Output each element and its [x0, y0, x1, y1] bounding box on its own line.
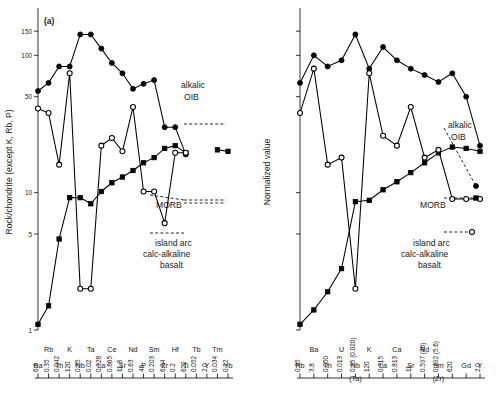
element-label-upper: Ba	[309, 345, 318, 354]
marker-filled-square	[409, 170, 413, 174]
marker-filled-square	[474, 196, 478, 200]
marker-open-circle	[408, 105, 413, 110]
marker-filled-circle	[99, 46, 104, 51]
panel-b-chart: Normalized value0.353.80.0500.0130.35 (0…	[248, 0, 496, 405]
marker-filled-square	[46, 304, 50, 308]
element-label-lower: Sm	[433, 361, 444, 370]
element-label-upper: Tb	[192, 345, 200, 354]
normalizing-value: 620	[446, 361, 453, 372]
marker-filled-square	[464, 146, 468, 150]
normalizing-value: 0.2	[169, 363, 176, 372]
element-label-lower: Sr	[119, 361, 127, 370]
element-label-lower: Ti	[183, 361, 189, 370]
normalizing-value: 0.052	[190, 356, 197, 372]
element-label-lower: Y	[478, 361, 483, 370]
legend-label: OIB	[451, 132, 466, 142]
element-label-lower: Zr	[161, 361, 168, 370]
element-label-lower: Nb	[76, 361, 85, 370]
y-tick-label: 5	[28, 231, 32, 238]
marker-open-circle	[36, 106, 41, 111]
marker-filled-circle	[67, 64, 72, 69]
marker-open-circle	[450, 196, 455, 201]
marker-filled-square	[57, 237, 61, 241]
marker-filled-square	[325, 290, 329, 294]
legend-label: calc-alkaline	[143, 249, 191, 259]
element-label-upper: K	[67, 345, 72, 354]
marker-filled-circle	[339, 58, 344, 63]
element-label-lower: Sr	[407, 361, 415, 370]
marker-open-circle	[109, 136, 114, 141]
marker-open-circle	[173, 150, 178, 155]
marker-filled-circle	[109, 60, 114, 65]
marker-open-circle	[339, 155, 344, 160]
element-label-lower: Nb	[351, 361, 360, 370]
element-label-upper: U	[339, 345, 344, 354]
element-label-upper: Rb	[44, 345, 53, 354]
element-label-upper: Ca	[392, 345, 401, 354]
element-label-upper: Sm	[149, 345, 160, 354]
marker-open-circle	[311, 66, 316, 71]
marker-filled-circle	[325, 64, 330, 69]
marker-open-circle	[99, 143, 104, 148]
element-label-upper: Ta	[87, 345, 95, 354]
marker-filled-square	[173, 143, 177, 147]
normalizing-value: 120	[363, 361, 370, 372]
y-tick-label: 150	[21, 28, 32, 35]
y-axis-title: Normalized value	[262, 139, 272, 206]
marker-filled-square	[120, 175, 124, 179]
element-label-lower: La	[379, 361, 387, 370]
marker-filled-square	[478, 149, 482, 153]
marker-open-circle	[131, 105, 136, 110]
marker-filled-circle	[408, 66, 413, 71]
element-label-sub: (Ta)	[349, 374, 361, 383]
normalizing-value: 0.813	[391, 356, 398, 372]
normalizing-value: 0.02	[85, 359, 92, 372]
marker-filled-square	[353, 199, 357, 203]
marker-open-circle	[353, 286, 358, 291]
marker-filled-circle	[353, 32, 358, 37]
normalizing-value: 0.63	[127, 359, 134, 372]
marker-filled-circle	[474, 184, 479, 189]
legend-label: calc-alkaline	[401, 249, 449, 259]
element-label-upper: Tm	[212, 345, 222, 354]
marker-filled-square	[422, 161, 426, 165]
panel-tag: (a)	[44, 16, 54, 26]
legend-label: island arc	[413, 238, 450, 248]
y-tick-label: 1	[28, 327, 32, 334]
y-tick-label: 10	[25, 189, 33, 196]
series-line-1	[38, 146, 186, 325]
marker-filled-square	[395, 180, 399, 184]
marker-filled-square	[110, 181, 114, 185]
marker-filled-circle	[311, 53, 316, 58]
marker-filled-square	[162, 146, 166, 150]
marker-filled-square	[226, 149, 230, 153]
marker-filled-square	[450, 145, 454, 149]
y-tick-label: 50	[25, 93, 33, 100]
marker-filled-circle	[152, 78, 157, 83]
legend-label: MORB	[420, 200, 446, 210]
spider-diagram-b: Normalized value0.353.80.0500.0130.35 (0…	[248, 0, 496, 405]
element-label-upper: Nd	[420, 345, 429, 354]
legend-label: basalt	[418, 260, 442, 270]
legend-label: alkalic	[448, 120, 473, 130]
marker-filled-circle	[436, 79, 441, 84]
marker-open-circle	[422, 155, 427, 160]
marker-open-circle	[57, 162, 62, 167]
y-tick-label: 100	[21, 52, 32, 59]
marker-filled-circle	[36, 88, 41, 93]
element-label-lower: Th	[323, 361, 331, 370]
marker-filled-circle	[464, 94, 469, 99]
element-label-lower: P	[141, 361, 146, 370]
marker-filled-square	[312, 308, 316, 312]
element-label-upper: K	[367, 345, 372, 354]
element-label-lower: La	[97, 361, 105, 370]
marker-open-circle	[381, 133, 386, 138]
marker-filled-circle	[141, 81, 146, 86]
panel-a-chart: 151050100150Rock/chondrite (except K, Rb…	[0, 0, 248, 405]
series-line-2	[300, 69, 480, 289]
marker-filled-circle	[394, 58, 399, 63]
marker-open-circle	[436, 147, 441, 152]
element-label-lower: Yb	[224, 361, 233, 370]
marker-filled-circle	[478, 143, 483, 148]
normalizing-value: 0.203	[148, 356, 155, 372]
